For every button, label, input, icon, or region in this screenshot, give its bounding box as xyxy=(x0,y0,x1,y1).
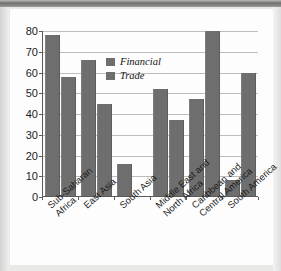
x-axis-tick-mark xyxy=(150,197,151,200)
gridline xyxy=(42,52,258,53)
y-axis-tick-label: 40 xyxy=(26,108,38,120)
legend-item-financial: Financial xyxy=(106,56,161,67)
legend-swatch-financial xyxy=(106,58,115,66)
legend-label-trade: Trade xyxy=(120,70,145,81)
page-left-edge-shadow xyxy=(0,7,9,271)
page-top-edge-shadow xyxy=(0,0,281,7)
x-axis-tick-mark xyxy=(258,197,259,200)
legend-label-financial: Financial xyxy=(120,56,161,67)
y-axis-tick-label: 60 xyxy=(26,67,38,79)
y-axis-line xyxy=(42,31,43,197)
gridline xyxy=(42,31,258,32)
x-axis-tick-mark xyxy=(114,197,115,200)
y-axis-tick-label: 20 xyxy=(26,150,38,162)
chart-legend: Financial Trade xyxy=(106,56,161,81)
y-axis-tick-label: 80 xyxy=(26,25,38,37)
scanned-page: 01020304050607080 Sub-SaharanAfricaEast … xyxy=(0,0,281,271)
legend-swatch-trade xyxy=(106,72,115,80)
y-axis-tick-label: 70 xyxy=(26,46,38,58)
y-axis-tick-label: 0 xyxy=(32,191,38,203)
y-axis-tick-label: 10 xyxy=(26,170,38,182)
chart-figure: 01020304050607080 Sub-SaharanAfricaEast … xyxy=(10,9,273,265)
legend-item-trade: Trade xyxy=(106,70,161,81)
page-right-edge-shadow xyxy=(273,7,281,271)
y-axis-tick-label: 50 xyxy=(26,87,38,99)
bar-financial-0 xyxy=(45,35,60,197)
x-axis-tick-mark xyxy=(42,197,43,200)
chart-card: 01020304050607080 Sub-SaharanAfricaEast … xyxy=(10,9,273,265)
y-axis-tick-label: 30 xyxy=(26,129,38,141)
